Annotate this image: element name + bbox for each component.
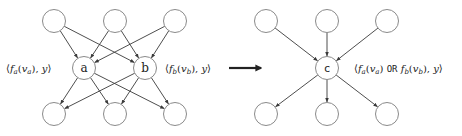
- edge: [122, 78, 139, 104]
- node-a-label: a: [80, 61, 87, 75]
- right-top-node-3-circle: [376, 10, 399, 33]
- node-a: a: [73, 57, 96, 80]
- right-bottom-node-3-circle: [376, 103, 399, 126]
- edge: [94, 73, 164, 108]
- edge: [276, 75, 318, 107]
- right-bottom-node-2: [316, 103, 339, 126]
- left-top-node-1: [43, 10, 66, 33]
- node-c-label: c: [324, 62, 331, 75]
- right-top-node-1: [255, 10, 278, 33]
- right-top-node-1-circle: [255, 10, 278, 33]
- edge: [60, 31, 77, 58]
- label-node-a: ⟨fa(va), y⟩: [6, 63, 51, 76]
- left-bottom-node-3: [164, 103, 187, 126]
- left-bottom-node-2: [104, 103, 127, 126]
- graph-merge-diagram: ab c ⟨fa(va), y⟩ ⟨fb(vb), y⟩ ⟨fa(va) OR …: [0, 0, 462, 136]
- right-bottom-node-3: [376, 103, 399, 126]
- left-top-node-3: [164, 10, 187, 33]
- edge: [65, 73, 135, 108]
- left-top-node-1-circle: [43, 10, 66, 33]
- node-c: c: [316, 57, 339, 80]
- edge: [336, 75, 377, 107]
- label-node-b: ⟨fb(vb), y⟩: [165, 63, 211, 76]
- left-bottom-node-1-circle: [43, 103, 66, 126]
- left-bottom-node-2-circle: [104, 103, 127, 126]
- left-top-node-3-circle: [164, 10, 187, 33]
- node-b: b: [134, 57, 157, 80]
- edge: [91, 31, 109, 58]
- right-top-node-2: [316, 10, 339, 33]
- left-top-node-2: [104, 10, 127, 33]
- label-node-c: ⟨fa(va) OR fb(vb), y⟩: [354, 63, 443, 76]
- edge: [61, 78, 78, 104]
- right-bottom-node-1: [255, 103, 278, 126]
- edge: [275, 28, 317, 61]
- right-top-node-3: [376, 10, 399, 33]
- right-top-node-2-circle: [316, 10, 339, 33]
- edge: [336, 28, 378, 61]
- edge: [151, 78, 168, 104]
- left-top-node-2-circle: [104, 10, 127, 33]
- left-bottom-node-3-circle: [164, 103, 187, 126]
- right-bottom-node-1-circle: [255, 103, 278, 126]
- left-bottom-node-1: [43, 103, 66, 126]
- edge: [151, 31, 168, 58]
- node-b-label: b: [141, 61, 149, 75]
- right-bottom-node-2-circle: [316, 103, 339, 126]
- edge: [95, 26, 165, 62]
